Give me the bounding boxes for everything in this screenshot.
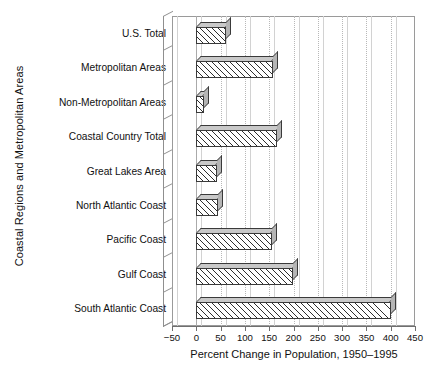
x-tick-label-400: 400 xyxy=(383,332,399,343)
y-tick-label-north-atlantic-coast: North Atlantic Coast xyxy=(76,200,166,211)
gridline-back-200 xyxy=(299,16,300,326)
bar-gulf-coast xyxy=(196,268,293,285)
gridline-300 xyxy=(342,16,343,326)
gridline-back-350 xyxy=(371,16,372,326)
y-axis-rail-outer-line xyxy=(163,16,164,327)
bar-south-atlantic-coast xyxy=(196,302,390,319)
x-tick-150 xyxy=(269,326,270,331)
x-tick--50 xyxy=(172,326,173,331)
gridline-back--50 xyxy=(177,16,178,326)
x-axis-title: Percent Change in Population, 1950–1995 xyxy=(172,348,416,360)
x-tick-label-100: 100 xyxy=(237,332,253,343)
bar-non-metropolitan-areas xyxy=(196,96,203,113)
gridline-200 xyxy=(294,16,295,326)
bar-front-face xyxy=(196,165,216,182)
x-tick-0 xyxy=(196,326,197,331)
x-tick-250 xyxy=(318,326,319,331)
bar-front-face xyxy=(196,199,218,216)
bar-great-lakes-area xyxy=(196,165,216,182)
x-tick-label-250: 250 xyxy=(310,332,326,343)
y-tick-label-pacific-coast: Pacific Coast xyxy=(107,234,166,245)
x-tick-450 xyxy=(415,326,416,331)
x-tick-label-0: 0 xyxy=(194,332,199,343)
chart-figure: Coastal Regions and Metropolitan Areas U… xyxy=(0,0,430,367)
y-tick-label-coastal-country-total: Coastal Country Total xyxy=(69,131,166,142)
x-tick-label-200: 200 xyxy=(285,332,301,343)
x-tick-label-300: 300 xyxy=(334,332,350,343)
x-tick-label-450: 450 xyxy=(407,332,423,343)
x-tick-400 xyxy=(391,326,392,331)
bar-front-face xyxy=(196,61,272,78)
bar-metropolitan-areas xyxy=(196,61,272,78)
x-tick-300 xyxy=(342,326,343,331)
x-tick-label--50: −50 xyxy=(164,332,180,343)
gridline-back-400 xyxy=(396,16,397,326)
bar-front-face xyxy=(196,130,277,147)
gridline-350 xyxy=(366,16,367,326)
x-tick-label-150: 150 xyxy=(261,332,277,343)
x-tick-label-50: 50 xyxy=(215,332,226,343)
gridline-400 xyxy=(391,16,392,326)
bar-front-face xyxy=(196,96,203,113)
gridline-back-250 xyxy=(323,16,324,326)
bar-front-face xyxy=(196,27,226,44)
bar-front-face xyxy=(196,233,271,250)
plot-area xyxy=(172,16,415,326)
gridline-250 xyxy=(318,16,319,326)
bar-coastal-country-total xyxy=(196,130,277,147)
y-tick-label-gulf-coast: Gulf Coast xyxy=(118,269,166,280)
y-tick-label-u-s-total: U.S. Total xyxy=(122,28,166,39)
x-tick-50 xyxy=(221,326,222,331)
x-tick-label-350: 350 xyxy=(358,332,374,343)
bar-pacific-coast xyxy=(196,233,271,250)
y-tick-label-metropolitan-areas: Metropolitan Areas xyxy=(81,62,166,73)
bar-front-face xyxy=(196,268,293,285)
gridline-back-300 xyxy=(347,16,348,326)
y-tick-label-great-lakes-area: Great Lakes Area xyxy=(87,166,166,177)
bar-north-atlantic-coast xyxy=(196,199,218,216)
y-tick-label-non-metropolitan-areas: Non-Metropolitan Areas xyxy=(59,97,166,108)
y-axis-tick-labels: U.S. TotalMetropolitan AreasNon-Metropol… xyxy=(18,16,166,326)
x-tick-200 xyxy=(294,326,295,331)
x-tick-100 xyxy=(245,326,246,331)
y-tick-label-south-atlantic-coast: South Atlantic Coast xyxy=(74,303,166,314)
bar-u-s-total xyxy=(196,27,226,44)
bar-front-face xyxy=(196,302,390,319)
x-tick-350 xyxy=(366,326,367,331)
